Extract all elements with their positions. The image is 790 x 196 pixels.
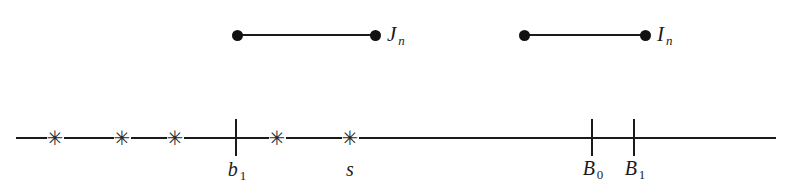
interval-segment-J — [237, 34, 375, 36]
star-mark-3-icon: ✳ — [165, 128, 185, 148]
tick-label-B0-subscript: 0 — [595, 167, 604, 182]
tick-label-B1-subscript: 1 — [637, 167, 646, 182]
tick-label-s-text: s — [346, 158, 354, 180]
star-mark-5-icon: ✳ — [340, 128, 360, 148]
interval-I-label: In — [657, 22, 673, 49]
interval-segment-I — [524, 34, 645, 36]
interval-I-label-text: I — [657, 22, 665, 46]
tick-label-B1: B1 — [612, 157, 658, 183]
tick-label-B1-text: B — [625, 157, 637, 179]
tick-label-b1: b1 — [215, 158, 259, 184]
interval-J-label-text: J — [387, 22, 397, 46]
interval-I-right-endpoint — [640, 30, 651, 41]
tick-mark-B0 — [591, 119, 593, 156]
interval-J-label: Jn — [387, 22, 405, 49]
interval-I-left-endpoint — [519, 30, 530, 41]
number-line-diagram: Jn In ✳ ✳ ✳ ✳ ✳ b1 s B0 B1 — [0, 0, 790, 196]
star-mark-4-icon: ✳ — [267, 128, 287, 148]
interval-J-label-subscript: n — [397, 33, 406, 48]
interval-J-right-endpoint — [370, 30, 381, 41]
star-mark-1-icon: ✳ — [45, 128, 65, 148]
star-mark-2-icon: ✳ — [112, 128, 132, 148]
tick-label-b1-subscript: 1 — [238, 168, 247, 183]
tick-label-B0: B0 — [570, 157, 616, 183]
tick-label-b1-text: b — [228, 158, 238, 180]
interval-I-label-subscript: n — [665, 33, 674, 48]
tick-label-s: s — [330, 158, 370, 181]
tick-mark-b1 — [235, 119, 237, 156]
interval-J-left-endpoint — [232, 30, 243, 41]
tick-mark-B1 — [633, 119, 635, 156]
tick-label-B0-text: B — [583, 157, 595, 179]
